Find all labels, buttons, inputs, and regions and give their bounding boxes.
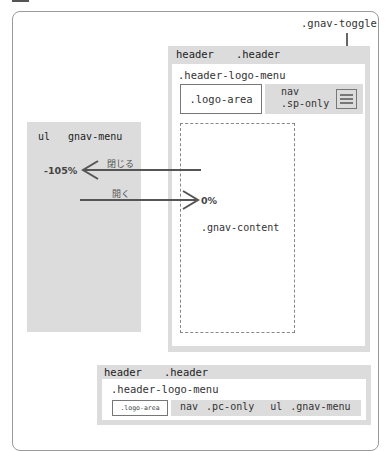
pc-header-class: .header <box>164 366 208 378</box>
pc-nav-tag: nav <box>180 401 198 412</box>
pc-header-tag: header <box>104 366 142 378</box>
pc-header-logo-menu-label: .header-logo-menu <box>111 383 218 395</box>
pc-ul-class: .gnav-menu <box>290 401 350 412</box>
open-label: 開く <box>112 187 130 200</box>
pc-ul-tag: ul <box>270 401 282 412</box>
close-label: 閉じる <box>107 157 134 170</box>
open-value: 0% <box>201 195 217 206</box>
pc-logo-area-label: .logo-area <box>120 404 159 412</box>
close-arrow-icon <box>83 161 201 179</box>
pc-nav-class: .pc-only <box>206 401 254 412</box>
pc-nav-label: nav.pc-onlyul.gnav-menu <box>180 401 351 412</box>
close-value: -105% <box>44 165 77 176</box>
open-arrow-icon <box>80 191 198 209</box>
pc-header-title: header.header <box>104 366 208 378</box>
pc-logo-area: .logo-area <box>112 400 168 416</box>
